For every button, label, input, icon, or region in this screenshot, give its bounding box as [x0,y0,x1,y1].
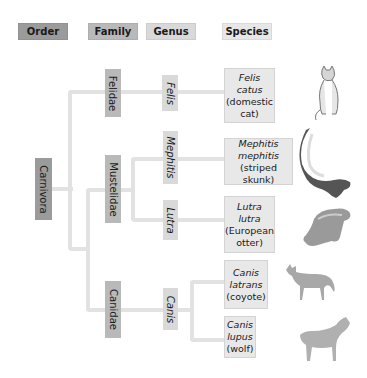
species-canis-latrans: Canis latrans (coyote) [224,260,268,309]
header-genus: Genus [146,23,196,40]
genus-mephitis: Mephitis [163,131,178,184]
species-common-name: (striped skunk) [225,162,292,186]
species-canis-lupus: Canis lupus (wolf) [224,316,256,358]
species-common-name: (domestic [226,96,273,108]
species-mephitis-mephitis: Mephitis mephitis (striped skunk) [224,138,293,185]
header-order: Order [18,23,68,40]
species-epithet: mephitis [238,150,279,162]
wolf-icon [296,315,354,365]
genus-label: Felis [165,82,176,105]
species-common-name: (European [225,225,274,237]
genus-lutra: Lutra [163,200,178,240]
coyote-icon [282,262,338,304]
species-common-name: (wolf) [227,343,254,355]
species-felis-catus: Felis catus (domestic cat) [224,68,275,123]
header-family: Family [88,23,138,40]
connector-line [68,90,72,250]
species-epithet: lutra [238,213,260,225]
genus-label: Lutra [165,207,176,233]
species-genus: Lutra [237,201,262,213]
species-genus: Canis [227,319,253,331]
species-common-name: (coyote) [226,291,265,303]
species-epithet: lupus [227,331,253,343]
species-genus: Mephitis [238,138,278,150]
species-genus: Felis [239,72,261,84]
order-carnivora: Carnivora [35,158,52,220]
family-label: Canidae [108,289,119,330]
family-label: Felidae [108,75,119,111]
species-common-name-2: cat) [240,108,258,120]
family-felidae: Felidae [105,69,121,117]
connector-line [190,280,194,342]
genus-canis: Canis [163,288,178,330]
genus-label: Mephitis [165,136,176,178]
species-epithet: latrans [230,279,263,291]
genus-label: Canis [165,295,176,322]
family-canidae: Canidae [105,281,121,338]
species-common-name-2: otter) [236,237,263,249]
family-mustelidae: Mustelidae [105,155,121,223]
species-epithet: catus [237,84,263,96]
connector-line [68,90,224,94]
otter-icon [298,205,358,250]
species-genus: Canis [233,267,259,279]
header-species: Species [222,23,272,40]
cat-icon [308,64,348,124]
order-label: Carnivora [38,165,49,213]
connector-line [190,338,224,342]
connector-line [86,188,90,312]
genus-felis: Felis [162,75,178,111]
connector-line [190,280,224,284]
connector-line [86,188,106,192]
species-lutra-lutra: Lutra lutra (European otter) [224,196,275,253]
skunk-icon [296,124,356,204]
family-label: Mustelidae [108,162,119,216]
connector-line [131,157,135,221]
